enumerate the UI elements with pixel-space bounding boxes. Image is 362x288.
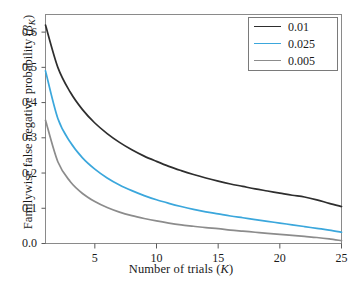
legend-color-swatch [254,43,281,44]
legend-label: 0.025 [288,38,315,50]
legend-label: 0.005 [288,55,315,67]
y-axis-label-subscript: K [27,19,37,25]
y-axis-label-prefix: Familywise false negative probability ( [21,31,35,229]
legend-color-swatch [254,60,281,61]
legend-color-swatch [254,26,281,27]
legend-item: 0.01 [249,18,337,35]
legend-label: 0.01 [288,21,309,33]
chart-figure: 0.00.10.20.30.40.50.6 510152025 Familywi… [0,0,362,288]
x-axis-label-prefix: Number of trials ( [129,262,221,276]
x-axis-label-symbol: K [221,262,229,276]
legend-item: 0.005 [249,52,337,69]
y-axis-label-suffix: ) [21,15,35,19]
x-axis-label: Number of trials (K) [0,262,362,277]
y-axis-label-container: Familywise false negative probability (β… [18,0,38,247]
y-axis-label: Familywise false negative probability (β… [21,15,37,229]
y-axis-label-symbol: β [21,25,35,31]
x-axis-label-suffix: ) [229,262,233,276]
legend-item: 0.025 [249,35,337,52]
legend: 0.010.0250.005 [248,17,338,71]
